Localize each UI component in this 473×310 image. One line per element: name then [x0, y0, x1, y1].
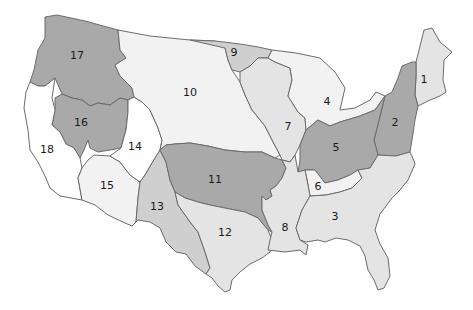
label-region-12: 12 [218, 226, 232, 239]
label-region-8: 8 [282, 221, 289, 234]
label-region-1: 1 [421, 73, 428, 86]
label-region-4: 4 [324, 95, 331, 108]
label-region-11: 11 [208, 173, 222, 186]
label-region-9: 9 [231, 46, 238, 59]
label-region-3: 3 [332, 210, 339, 223]
label-region-16: 16 [74, 116, 88, 129]
us-water-regions-map: 1 2 3 4 5 6 7 8 9 10 11 12 13 14 15 16 1… [0, 0, 473, 310]
label-region-6: 6 [315, 180, 322, 193]
label-region-14: 14 [128, 140, 142, 153]
region-1[interactable] [415, 28, 452, 106]
label-region-10: 10 [183, 86, 197, 99]
label-region-13: 13 [150, 200, 164, 213]
label-region-7: 7 [285, 120, 292, 133]
label-region-15: 15 [100, 179, 114, 192]
label-region-2: 2 [392, 116, 399, 129]
label-region-5: 5 [333, 141, 340, 154]
label-region-18: 18 [40, 143, 54, 156]
label-region-17: 17 [70, 49, 84, 62]
